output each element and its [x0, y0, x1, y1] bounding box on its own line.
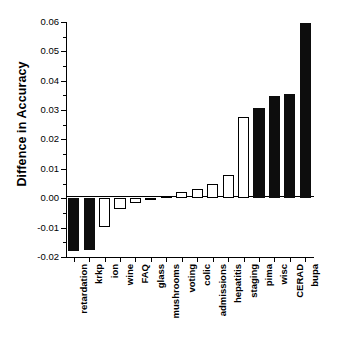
x-axis-tick [74, 257, 75, 262]
y-axis-minor-tick [63, 154, 66, 155]
y-axis-tick [61, 110, 66, 111]
y-axis-minor-tick [63, 37, 66, 38]
bar-cerad [284, 94, 295, 199]
x-axis-tick-label: admissions [217, 264, 228, 346]
y-axis-tick-label: 0.03 [25, 104, 59, 115]
y-axis-tick [61, 81, 66, 82]
x-axis-tick-label: bupa [309, 264, 320, 346]
bar-pima [253, 108, 264, 198]
x-axis-tick [120, 257, 121, 262]
y-axis-tick [61, 257, 66, 258]
y-axis-tick [61, 198, 66, 199]
x-axis-tick-label: wine [124, 264, 135, 346]
x-axis-tick-label: krkp [93, 264, 104, 346]
x-axis-tick [213, 257, 214, 262]
x-axis-tick-label: retardation [78, 264, 89, 346]
bar-colic [192, 189, 203, 198]
x-axis-tick [259, 257, 260, 262]
y-axis-tick [61, 22, 66, 23]
bar-chart: Diffence in Accuracy 0.060.050.040.030.0… [0, 0, 338, 346]
x-axis-tick-label: FAQ [139, 264, 150, 346]
y-axis-tick-labels: 0.060.050.040.030.020.010.00-0.01-0.02 [21, 0, 59, 346]
y-axis-minor-tick [63, 184, 66, 185]
y-axis-tick-label: -0.01 [25, 222, 59, 233]
y-axis-minor-tick [63, 213, 66, 214]
x-axis-tick [305, 257, 306, 262]
x-axis-tick [135, 257, 136, 262]
bar-retardation [68, 198, 79, 250]
x-axis-tick [197, 257, 198, 262]
y-axis-tick-label: -0.02 [25, 251, 59, 262]
x-axis-tick-label: mushrooms [170, 264, 181, 346]
x-axis-tick [228, 257, 229, 262]
x-axis-tick-label: hepatitis [232, 264, 243, 346]
bar-voting [176, 192, 187, 198]
x-axis-tick [105, 257, 106, 262]
x-axis-tick-label: pima [263, 264, 274, 346]
bar-faq [130, 198, 141, 202]
y-axis-tick-label: 0.01 [25, 163, 59, 174]
x-axis-tick-label: staging [248, 264, 259, 346]
x-axis-tick-label: glass [155, 264, 166, 346]
y-axis-tick [61, 51, 66, 52]
x-axis-line [66, 257, 314, 258]
bar-bupa [300, 23, 311, 198]
bar-ion [99, 198, 110, 227]
y-axis-tick-label: 0.02 [25, 133, 59, 144]
y-axis-minor-tick [63, 125, 66, 126]
x-axis-tick [290, 257, 291, 262]
x-axis-tick-label: ion [109, 264, 120, 346]
y-axis-minor-tick [63, 242, 66, 243]
x-axis-tick-label: voting [186, 264, 197, 346]
x-axis-tick-label: CERAD [294, 264, 305, 346]
x-axis-tick [274, 257, 275, 262]
y-axis-tick [61, 139, 66, 140]
x-axis-tick [89, 257, 90, 262]
bar-admissions [207, 184, 218, 198]
y-axis-tick-label: 0.06 [25, 16, 59, 27]
x-axis-tick-label: colic [201, 264, 212, 346]
bar-wisc [269, 96, 280, 198]
bar-mushrooms [161, 196, 172, 198]
y-axis-tick-label: 0.05 [25, 45, 59, 56]
y-axis-minor-tick [63, 66, 66, 67]
bar-wine [114, 198, 125, 208]
x-axis-tick [151, 257, 152, 262]
x-axis-tick-label: wisc [278, 264, 289, 346]
bar-krkp [84, 198, 95, 250]
x-axis-tick [244, 257, 245, 262]
y-axis-tick-label: 0.04 [25, 75, 59, 86]
bar-glass [145, 198, 156, 200]
x-axis-tick [166, 257, 167, 262]
y-axis-tick [61, 228, 66, 229]
y-axis-minor-tick [63, 95, 66, 96]
x-axis-tick [182, 257, 183, 262]
bar-staging [238, 117, 249, 199]
bar-hepatitis [223, 175, 234, 198]
y-axis-tick [61, 169, 66, 170]
y-axis-tick-label: 0.00 [25, 192, 59, 203]
